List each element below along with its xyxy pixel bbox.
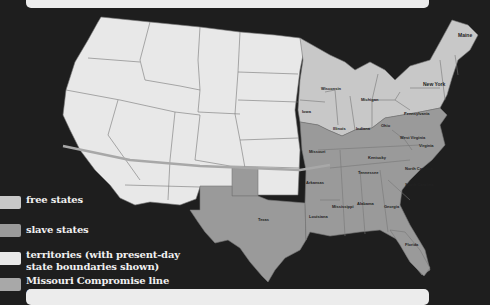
legend-label: free states: [26, 194, 83, 206]
label-virginia: Virginia: [419, 143, 434, 148]
label-indiana: Indiana: [356, 126, 371, 131]
label-illinois: Illinois: [333, 126, 346, 131]
label-mississippi: Mississippi: [332, 204, 354, 209]
swatch-free-states: [0, 196, 21, 209]
label-wisconsin: Wisconsin: [321, 86, 342, 91]
label-arkansas: Arkansas: [306, 180, 325, 185]
legend-label: Missouri Compromise line: [26, 275, 169, 287]
indian-territory: [232, 168, 258, 196]
legend-item-territories: territories (with present-day state boun…: [0, 252, 21, 265]
label-louisiana: Louisiana: [309, 214, 328, 219]
bottom-caption-bar: [26, 289, 429, 305]
legend-item-slave-states: slave states: [0, 224, 21, 237]
label-iowa: Iowa: [302, 109, 312, 114]
label-new-york: New York: [423, 81, 446, 87]
territories-region: [63, 17, 305, 205]
slave-states-region: [300, 108, 447, 275]
label-north-carolina: North Carolina: [405, 166, 434, 171]
legend-label: territories (with present-day: [26, 249, 180, 261]
label-georgia: Georgia: [384, 204, 400, 209]
label-texas: Texas: [258, 217, 270, 222]
label-south-carolina: South Carolina: [405, 182, 434, 187]
label-alabama: Alabama: [357, 201, 374, 206]
label-maine: Maine: [458, 32, 472, 38]
state-texas: [190, 186, 306, 282]
legend-label: slave states: [26, 224, 89, 236]
label-ohio: Ohio: [381, 123, 391, 128]
label-pennsylvania: Pennsylvania: [404, 111, 430, 116]
label-kentucky: Kentucky: [368, 155, 387, 160]
label-tennessee: Tennessee: [358, 170, 379, 175]
legend-item-compromise-line: Missouri Compromise line (36°30' paralle…: [0, 278, 21, 291]
label-west-virginia: West Virginia: [400, 135, 426, 140]
swatch-compromise-line: [0, 278, 21, 291]
legend-item-free-states: free states: [0, 196, 21, 209]
legend-label: state boundaries shown): [26, 261, 159, 273]
swatch-slave-states: [0, 224, 21, 237]
swatch-territories: [0, 252, 21, 265]
label-florida: Florida: [405, 242, 419, 247]
label-michigan: Michigan: [361, 97, 379, 102]
label-missouri: Missouri: [309, 149, 325, 154]
